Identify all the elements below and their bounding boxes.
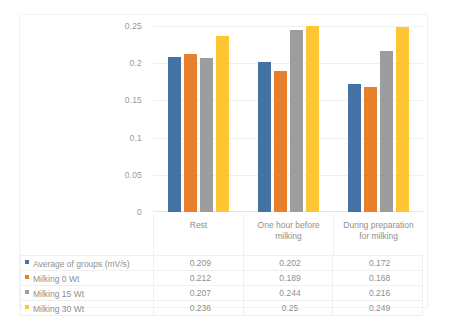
table-cell-value: 0.249 [333, 301, 423, 316]
table-row: Milking 15 Wt0.2070.2440.216 [21, 286, 423, 301]
bar [274, 71, 287, 212]
legend-cell: Milking 0 Wt [21, 271, 154, 286]
table-cell-value: 0.168 [333, 271, 423, 286]
category-label-line: milking [244, 231, 333, 242]
bar-groups [153, 26, 423, 212]
bar [216, 36, 229, 212]
legend-label: Milking 0 Wt [33, 273, 79, 283]
bar [380, 51, 393, 212]
y-axis-tick-label: 0.1 [14, 133, 148, 143]
legend-label: Milking 15 Wt [33, 288, 84, 298]
plot-area [153, 26, 423, 212]
legend-swatch-icon [25, 305, 29, 309]
chart-frame: 00.050.10.150.20.25 RestOne hour beforem… [19, 14, 428, 308]
table-cell-value: 0.202 [243, 256, 333, 271]
legend-label: Milking 30 Wt [33, 303, 84, 313]
legend-cell: Average of groups (mV/s) [21, 256, 154, 271]
table-row: Average of groups (mV/s)0.2090.2020.172 [21, 256, 423, 271]
bar [168, 57, 181, 212]
chart-data-table: Average of groups (mV/s)0.2090.2020.172M… [20, 255, 423, 316]
table-cell-value: 0.244 [243, 286, 333, 301]
legend-swatch-icon [25, 290, 29, 294]
bar-group [333, 26, 423, 212]
category-axis: RestOne hour beforemilkingDuring prepara… [153, 215, 423, 255]
bar [348, 84, 361, 212]
bar [290, 30, 303, 212]
bar [364, 87, 377, 212]
legend-swatch-icon [25, 260, 29, 264]
bar-group [243, 26, 333, 212]
y-axis-tick-label: 0.15 [14, 95, 148, 105]
table-cell-value: 0.172 [333, 256, 423, 271]
table-cell-value: 0.189 [243, 271, 333, 286]
y-axis-tick-label: 0.2 [14, 58, 148, 68]
category-label: Rest [153, 215, 243, 255]
table-cell-value: 0.212 [154, 271, 244, 286]
bar [258, 62, 271, 212]
table-row: Milking 0 Wt0.2120.1890.168 [21, 271, 423, 286]
category-label-line: One hour before [244, 220, 333, 231]
legend-cell: Milking 30 Wt [21, 301, 154, 316]
category-label: One hour beforemilking [243, 215, 333, 255]
table-row: Milking 30 Wt0.2360.250.249 [21, 301, 423, 316]
y-axis-tick-label: 0.05 [14, 170, 148, 180]
bar-group [153, 26, 243, 212]
y-axis: 00.050.10.150.20.25 [20, 15, 148, 215]
bar [396, 27, 409, 212]
category-label-line: Rest [154, 220, 243, 231]
plot-region: 00.050.10.150.20.25 [20, 15, 429, 215]
legend-swatch-icon [25, 275, 29, 279]
bar [306, 26, 319, 212]
legend-cell: Milking 15 Wt [21, 286, 154, 301]
table-cell-value: 0.209 [154, 256, 244, 271]
table-cell-value: 0.216 [333, 286, 423, 301]
table-cell-value: 0.236 [154, 301, 244, 316]
legend-label: Average of groups (mV/s) [33, 258, 130, 268]
table-cell-value: 0.207 [154, 286, 244, 301]
y-axis-tick-label: 0 [14, 207, 148, 217]
category-label-line: During preparation [334, 220, 423, 231]
category-label: During preparationfor milking [333, 215, 423, 255]
y-axis-tick-label: 0.25 [14, 21, 148, 31]
table-cell-value: 0.25 [243, 301, 333, 316]
bar [200, 58, 213, 212]
bar [184, 54, 197, 212]
category-label-line: for milking [334, 231, 423, 242]
